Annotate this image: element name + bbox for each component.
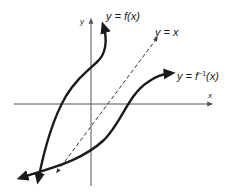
f-inverse-curve-label: y = f−1(x) [177,70,219,82]
y-axis-label: y [80,18,84,26]
f-curve [38,25,106,181]
f-curve-label: y = f(x) [106,11,140,22]
identity-line-label: y = x [155,27,179,38]
identity-line [57,38,157,172]
graph-canvas [0,0,230,193]
f-inverse-label-prefix: y = f [177,70,198,82]
x-axis-label: x [208,92,212,100]
f-inverse-label-sup: −1 [198,70,206,77]
f-inverse-label-suffix: (x) [206,70,219,82]
